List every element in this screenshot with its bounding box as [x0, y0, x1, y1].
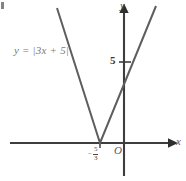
curve-equation-label: y = |3x + 5|	[14, 45, 69, 56]
x-intercept-label: − 5 3	[88, 146, 98, 162]
x-intercept-minus-sign: −	[88, 151, 92, 158]
x-intercept-fraction: 5 3	[93, 146, 99, 162]
fraction-numerator: 5	[93, 146, 99, 153]
y-tick-label-5: 5	[110, 55, 116, 66]
y-axis-label: y	[120, 0, 125, 11]
absolute-value-graph-figure: y = |3x + 5| y x O 5 − 5 3	[0, 0, 186, 181]
origin-label: O	[114, 145, 122, 156]
x-axis-label: x	[176, 136, 181, 147]
curve-absolute-value	[57, 6, 156, 143]
fraction-denominator: 3	[93, 155, 99, 162]
